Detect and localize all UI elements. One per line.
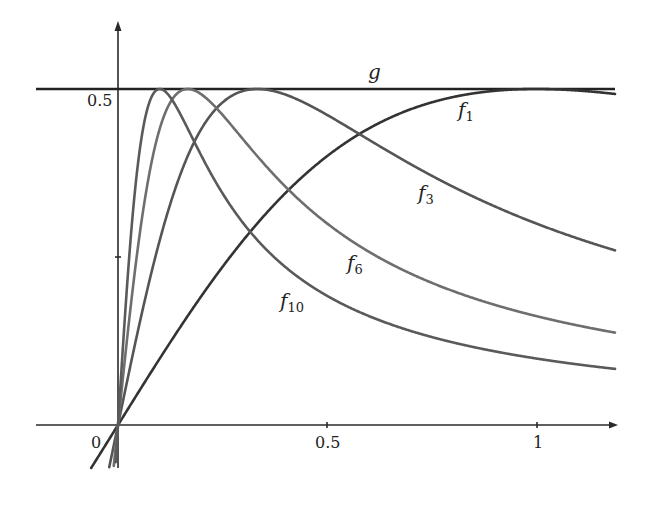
label-f1: f1 bbox=[456, 98, 474, 124]
label-f6-sub: 6 bbox=[354, 262, 362, 277]
y-axis-arrow-icon bbox=[115, 21, 122, 31]
label-f10: f10 bbox=[278, 289, 304, 315]
label-f3-sub: 3 bbox=[425, 192, 433, 207]
series-f1 bbox=[91, 89, 615, 468]
x-tick-label-1: 1 bbox=[533, 433, 543, 452]
label-f3: f3 bbox=[416, 181, 434, 207]
function-plot: 0 0.5 1 0.5 g f1 f3 f6 f10 bbox=[0, 0, 645, 515]
label-f6: f6 bbox=[345, 251, 363, 277]
y-tick-label-0.5: 0.5 bbox=[87, 91, 112, 110]
label-f1-sub: 1 bbox=[465, 109, 473, 124]
series-f10 bbox=[116, 89, 615, 462]
series-f6 bbox=[114, 89, 615, 466]
series-f3 bbox=[109, 89, 615, 467]
x-tick-label-0: 0 bbox=[91, 433, 101, 452]
x-axis-arrow-icon bbox=[609, 422, 618, 429]
label-g: g bbox=[368, 60, 381, 84]
x-tick-label-0.5: 0.5 bbox=[315, 433, 340, 452]
label-f10-sub: 10 bbox=[287, 300, 304, 315]
